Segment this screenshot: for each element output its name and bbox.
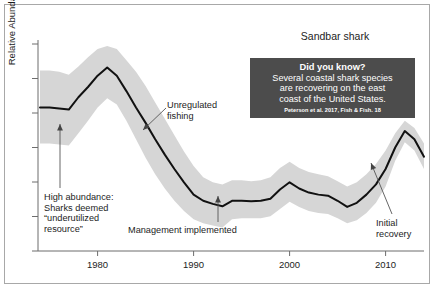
x-tick-label-1980: 1980: [87, 259, 108, 270]
x-tick-label-1990: 1990: [183, 259, 204, 270]
x-tick-label-2010: 2010: [375, 259, 396, 270]
annotation-management-implemented: Management implemented: [128, 225, 237, 236]
callout-body: Several coastal shark species are recove…: [255, 73, 410, 104]
callout-citation: Peterson et al. 2017, Fish & Fish. 18: [255, 106, 410, 114]
chart-title: Sandbar shark: [301, 30, 369, 42]
did-you-know-callout: Did you know? Several coastal shark spec…: [250, 58, 415, 118]
figure-container: Relative Abundance 1980199020002010 Sand…: [0, 0, 434, 288]
annotation-initial-recovery: Initial recovery: [376, 218, 411, 239]
annotation-unregulated-fishing: Unregulated fishing: [167, 100, 217, 121]
x-tick-label-2000: 2000: [279, 259, 300, 270]
callout-heading: Did you know?: [255, 62, 410, 73]
annotation-high-abundance: High abundance: Sharks deemed “underutil…: [44, 192, 113, 234]
chart-plot: [0, 0, 434, 288]
